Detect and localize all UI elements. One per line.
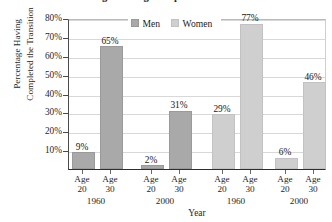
x-axis-age-number: 30 <box>293 184 332 194</box>
y-axis-tick-label: 40% <box>26 89 62 99</box>
y-axis-title-line-1: Percentage Having <box>11 0 24 129</box>
bar-value-label: 2% <box>131 155 171 165</box>
y-axis-tick-label-wrap: 20% <box>24 126 62 137</box>
bar-value-label: 6% <box>265 147 305 157</box>
bar[interactable] <box>275 158 298 169</box>
bar[interactable] <box>72 152 95 169</box>
legend-swatch-icon <box>131 19 139 27</box>
bar-value-label: 31% <box>159 100 199 110</box>
y-axis-tick-label-wrap: 50% <box>24 70 62 81</box>
x-axis-age-word: Age <box>159 174 199 184</box>
x-axis-age-label: Age30 <box>159 174 199 195</box>
x-axis-age-number: 30 <box>90 184 130 194</box>
bar-value-label: 29% <box>202 104 242 114</box>
legend-item[interactable]: Women <box>171 18 212 29</box>
y-axis-tick-label: 70% <box>26 32 62 42</box>
x-axis-title: Year <box>68 208 326 218</box>
y-axis-tick-label: 30% <box>26 107 62 117</box>
bar[interactable] <box>240 24 263 169</box>
bar[interactable] <box>100 46 123 169</box>
y-axis-tick-label: 50% <box>26 70 62 80</box>
x-axis-year-label: 1960 <box>201 196 271 206</box>
bar-value-label: 46% <box>293 72 332 82</box>
x-axis-age-label: Age30 <box>293 174 332 195</box>
y-axis-tick-label: 60% <box>26 51 62 61</box>
y-axis-tick-label: 10% <box>26 145 62 155</box>
page-title: Percentage Having Completed the Transiti… <box>0 0 332 2</box>
y-axis-tick-label: 20% <box>26 126 62 136</box>
y-axis-tick-label-wrap: 60% <box>24 51 62 62</box>
y-axis-tick-label-wrap: 40% <box>24 89 62 100</box>
x-axis-age-label: Age30 <box>230 174 270 195</box>
y-axis-tick-label-wrap: 10% <box>24 145 62 156</box>
legend: MenWomen <box>128 17 221 29</box>
bar-value-label: 77% <box>230 13 270 23</box>
bar-value-label: 65% <box>90 36 130 46</box>
bar[interactable] <box>303 82 326 169</box>
x-axis-age-word: Age <box>293 174 332 184</box>
bar[interactable] <box>169 111 192 170</box>
bar[interactable] <box>212 114 235 169</box>
legend-label: Men <box>143 18 161 29</box>
x-axis-year-label: 2000 <box>130 196 200 206</box>
bar-chart-figure: Percentage Having Completed the Transiti… <box>0 0 332 222</box>
legend-swatch-icon <box>171 19 179 27</box>
legend-item[interactable]: Men <box>131 18 160 29</box>
bar-value-label: 9% <box>62 142 102 152</box>
y-axis-tick-label-wrap: 30% <box>24 107 62 118</box>
x-axis-year-label: 2000 <box>264 196 332 206</box>
x-axis-year-label: 1960 <box>61 196 131 206</box>
bar[interactable] <box>141 165 164 169</box>
legend-label: Women <box>183 18 213 29</box>
x-axis-age-word: Age <box>90 174 130 184</box>
x-axis-age-number: 30 <box>159 184 199 194</box>
y-axis-tick-label-wrap: 80% <box>24 13 62 24</box>
x-axis-age-word: Age <box>230 174 270 184</box>
x-axis-age-number: 30 <box>230 184 270 194</box>
x-axis-age-label: Age30 <box>90 174 130 195</box>
y-axis-tick-label: 80% <box>26 13 62 23</box>
y-axis-tick-label-wrap: 70% <box>24 32 62 43</box>
